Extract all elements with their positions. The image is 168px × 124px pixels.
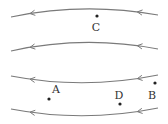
- point-label-d: D: [115, 89, 124, 102]
- point-label-a: A: [51, 83, 61, 96]
- field-line-diagram: CADB: [0, 0, 168, 124]
- field-line-2: [11, 42, 158, 51]
- point-b: [153, 81, 156, 84]
- point-d: [118, 102, 121, 105]
- point-c: [95, 14, 98, 17]
- point-label-b: B: [148, 89, 156, 102]
- field-line-1: [11, 9, 158, 17]
- point-label-c: C: [92, 21, 100, 34]
- point-a: [47, 97, 50, 100]
